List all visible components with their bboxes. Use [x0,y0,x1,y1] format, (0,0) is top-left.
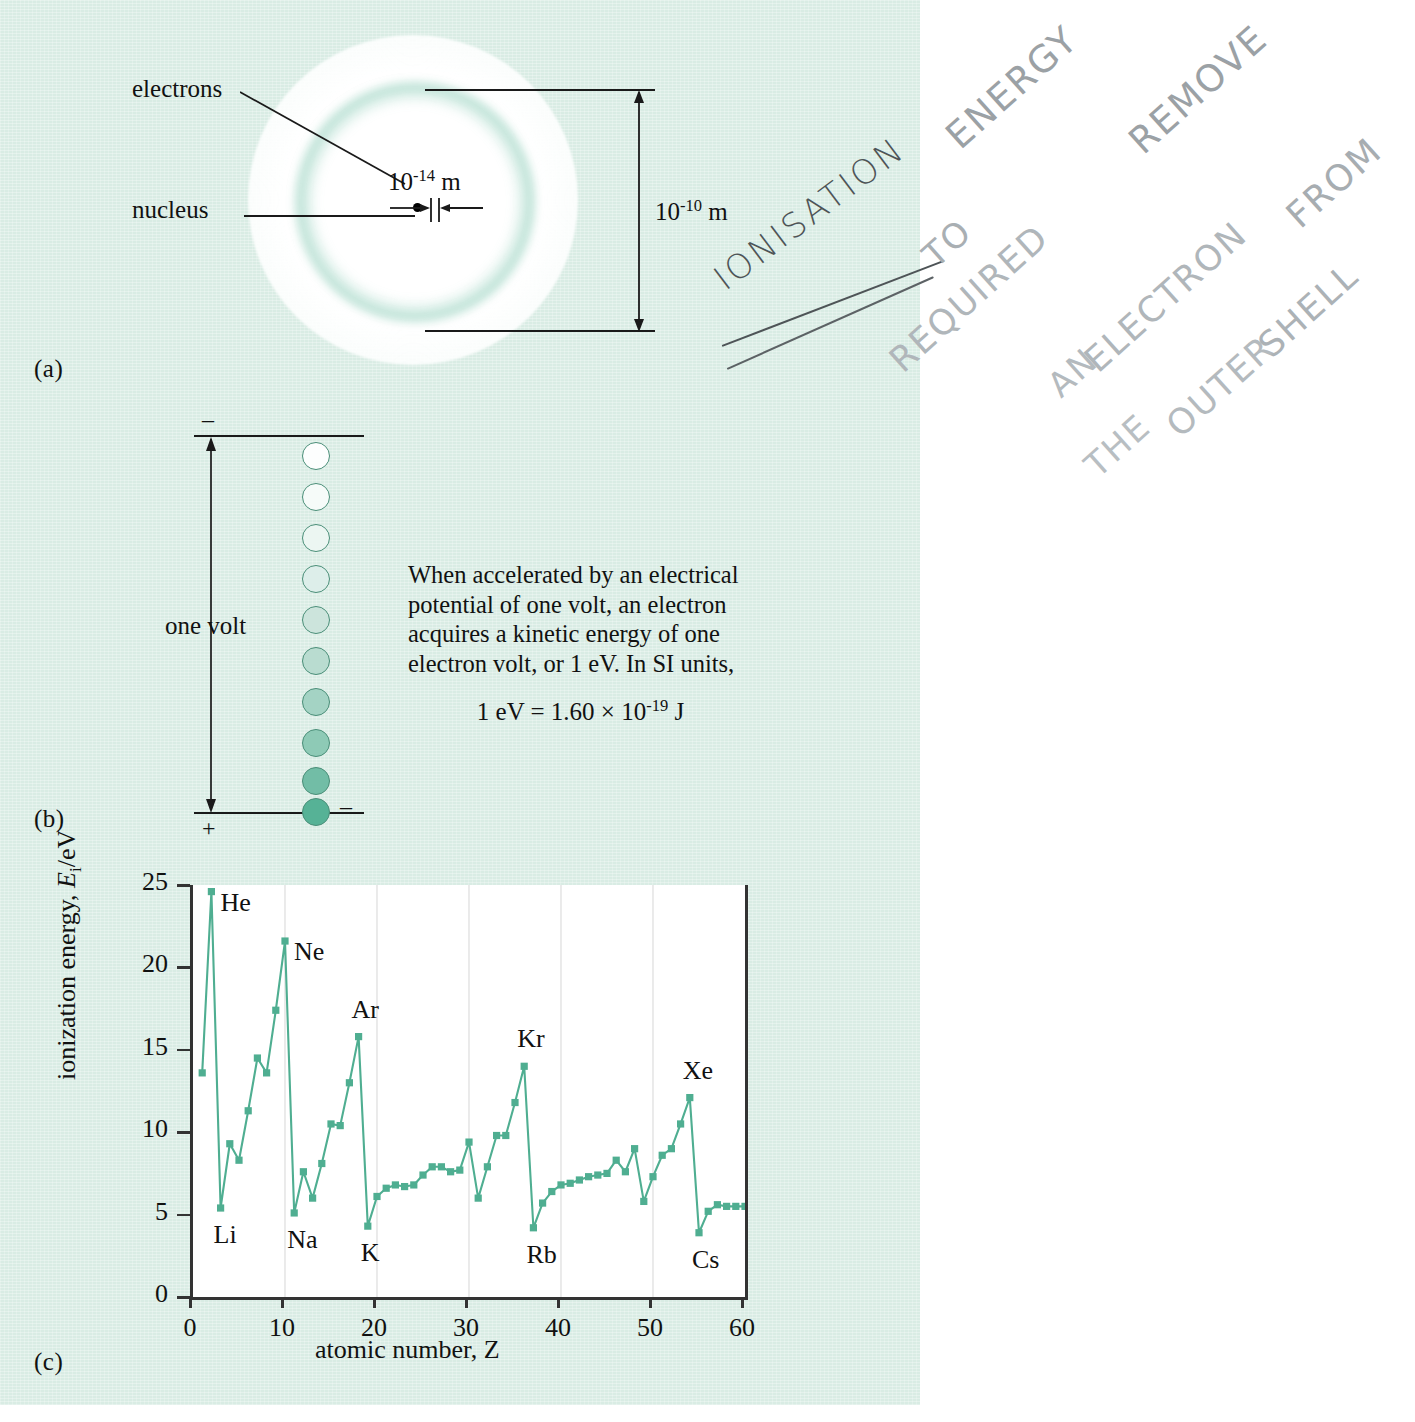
data-point-marker [199,1069,206,1076]
y-tick-label: 20 [60,949,168,979]
data-point-marker [741,1203,745,1210]
data-point-marker [208,888,215,895]
data-point-marker [410,1181,417,1188]
plot-area [190,885,748,1300]
electron-volt-equation: 1 eV = 1.60 × 10-19 J [408,696,753,728]
series-annotation-ar: Ar [352,995,379,1025]
data-point-marker [576,1176,583,1183]
handwritten-word-energy: ENERGY [938,17,1087,157]
data-point-marker [272,1007,279,1014]
x-tick-mark [649,1297,652,1308]
data-point-marker [695,1229,702,1236]
data-point-marker [318,1160,325,1167]
y-tick-label: 25 [60,867,168,897]
equation-lhs: 1 eV = 1.60 × 10 [477,698,646,725]
data-point-marker [705,1208,712,1215]
atom-size-label: 10-10 m [655,196,728,226]
atom-size-unit: m [708,198,727,225]
data-point-marker [327,1120,334,1127]
x-tick-mark [741,1297,744,1308]
data-point-marker [530,1224,537,1231]
data-point-marker [373,1193,380,1200]
data-point-marker [309,1195,316,1202]
data-point-marker [732,1203,739,1210]
handwritten-word-shell: SHELL [1251,255,1367,365]
data-point-marker [539,1199,546,1206]
one-volt-label: one volt [165,612,246,640]
electron-circle [302,767,330,795]
data-point-marker [263,1069,270,1076]
atom-dimension-top-rule [425,89,655,91]
data-point-marker [346,1079,353,1086]
handwritten-word-from: FROM [1278,130,1390,236]
handwritten-word-the: THE [1077,406,1159,485]
data-point-marker [456,1167,463,1174]
data-point-marker [429,1163,436,1170]
data-point-marker [226,1140,233,1147]
x-tick-mark [557,1297,560,1308]
atom-dimension-bottom-rule [425,330,655,332]
data-point-marker [557,1181,564,1188]
x-tick-label: 0 [174,1313,206,1343]
data-point-marker [668,1145,675,1152]
series-annotation-na: Na [287,1225,317,1255]
y-tick-mark [177,1049,190,1052]
data-point-marker [714,1201,721,1208]
data-point-marker [659,1152,666,1159]
equation-unit: J [674,698,684,725]
atom-size-exp: -10 [680,196,702,215]
series-annotation-ne: Ne [294,937,324,967]
electron-circle [302,524,330,552]
nucleus-label: nucleus [132,196,208,224]
data-point-marker [677,1120,684,1127]
x-tick-label: 20 [358,1313,390,1343]
data-point-marker [613,1157,620,1164]
data-point-marker [291,1209,298,1216]
y-tick-mark [177,966,190,969]
data-point-marker [355,1033,362,1040]
data-point-marker [585,1173,592,1180]
y-tick-label: 5 [60,1197,168,1227]
electron-circle [302,442,330,470]
positive-sign-label: + [202,815,216,842]
data-point-marker [649,1173,656,1180]
data-point-marker [493,1132,500,1139]
data-point-marker [511,1099,518,1106]
electron-volt-paragraph: When accelerated by an electrical potent… [408,561,739,677]
data-point-marker [281,937,288,944]
electron-circle [302,688,330,716]
x-tick-label: 60 [726,1313,758,1343]
atom-size-base: 10 [655,198,680,225]
y-tick-mark [177,1214,190,1217]
nucleus-size-exp: -14 [413,166,435,185]
x-tick-label: 50 [634,1313,666,1343]
series-annotation-xe: Xe [683,1056,713,1086]
data-point-marker [502,1132,509,1139]
data-point-marker [364,1223,371,1230]
data-point-marker [438,1163,445,1170]
data-point-marker [723,1203,730,1210]
data-point-marker [603,1170,610,1177]
series-annotation-rb: Rb [526,1240,556,1270]
atom-dimension-arrows [628,88,650,334]
electron-circle [302,647,330,675]
data-point-marker [465,1138,472,1145]
data-point-marker [548,1188,555,1195]
panel-label-a: (a) [34,355,63,383]
nucleus-size-unit: m [441,168,460,195]
series-annotation-li: Li [214,1220,237,1250]
nucleus-size-label: 10-14 m [388,166,461,196]
y-tick-label: 15 [60,1032,168,1062]
ionization-energy-chart: ionization energy, Ei/eV atomic number, … [60,865,820,1365]
electron-circle [302,565,330,593]
series-annotation-he: He [220,888,250,918]
data-point-marker [631,1145,638,1152]
y-tick-mark [177,884,190,887]
data-point-marker [447,1168,454,1175]
electron-circle [302,729,330,757]
x-tick-mark [281,1297,284,1308]
x-tick-mark [189,1297,192,1308]
plot-svg [193,885,745,1297]
x-tick-mark [465,1297,468,1308]
data-point-marker [383,1185,390,1192]
